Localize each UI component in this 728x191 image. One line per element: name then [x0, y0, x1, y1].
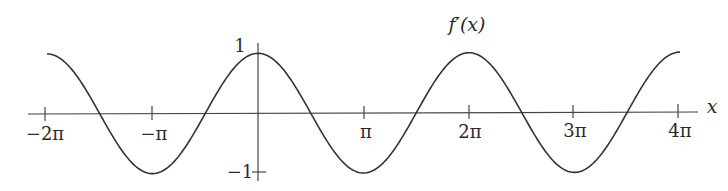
x-axis	[28, 112, 698, 114]
tick-label-neg2pi: −2π	[26, 123, 65, 144]
tick-label-negpi: −π	[141, 123, 168, 144]
tick-label-pi: π	[360, 121, 372, 142]
curve-title: f′(x)	[447, 13, 486, 35]
y-label-1: 1	[234, 35, 245, 56]
chart-canvas: −2π −π π 2π 3π 4π 1 −1 x f′(x)	[0, 0, 728, 191]
x-axis-label: x	[707, 95, 718, 117]
tick-label-3pi: 3π	[563, 120, 586, 141]
y-label-minus1: −1	[227, 161, 254, 182]
tick-label-4pi: 4π	[668, 120, 691, 141]
tick-label-2pi: 2π	[458, 121, 481, 142]
